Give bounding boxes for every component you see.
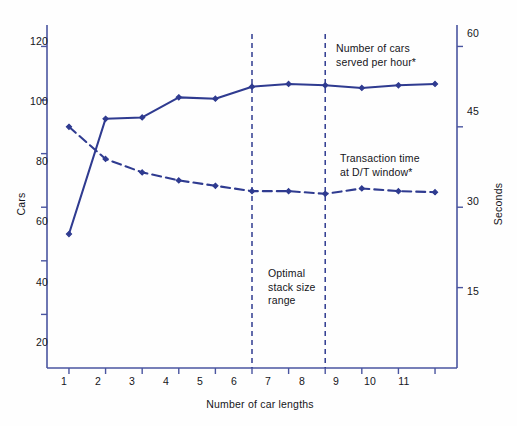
y2-axis-tick-30: 30 [467, 195, 495, 207]
x-axis-tick-10: 10 [358, 375, 382, 387]
x-axis-tick-5: 5 [188, 375, 212, 387]
y-axis-title: Cars [15, 174, 27, 234]
y-axis-tick-20: 20 [18, 336, 48, 348]
annotation-transaction-time: Transaction time at D/T window* [340, 152, 420, 179]
annotation-cars-served: Number of cars served per hour* [336, 42, 416, 69]
y-axis-tick-100: 100 [18, 95, 48, 107]
x-axis-tick-2: 2 [86, 375, 110, 387]
y-axis-tick-120: 120 [18, 35, 48, 47]
y2-axis-tick-60: 60 [467, 27, 495, 39]
y2-axis-title: Seconds [492, 174, 504, 234]
x-axis-tick-1: 1 [52, 375, 76, 387]
x-axis-tick-11: 11 [392, 375, 416, 387]
x-axis-tick-6: 6 [222, 375, 246, 387]
y-axis-tick-40: 40 [18, 276, 48, 288]
chart-plot-area [0, 0, 517, 426]
y2-axis-tick-45: 45 [467, 105, 495, 117]
annotation-optimal-range: Optimal stack size range [268, 267, 316, 308]
x-axis-tick-9: 9 [324, 375, 348, 387]
y2-axis-tick-15: 15 [467, 285, 495, 297]
x-axis-tick-3: 3 [120, 375, 144, 387]
chart-container: 20 40 60 80 100 120 15 30 45 60 1 2 3 4 … [0, 0, 517, 426]
y-axis-tick-80: 80 [18, 155, 48, 167]
x-axis-tick-8: 8 [290, 375, 314, 387]
x-axis-title: Number of car lengths [160, 398, 360, 410]
x-axis-tick-7: 7 [256, 375, 280, 387]
x-axis-tick-4: 4 [154, 375, 178, 387]
